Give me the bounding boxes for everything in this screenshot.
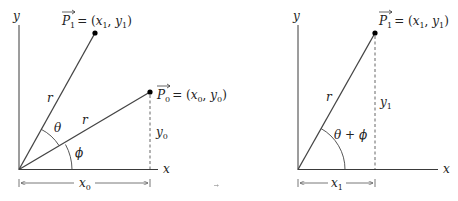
x0-label: x0 [79, 176, 91, 192]
y1-label: y1 [379, 95, 392, 111]
point-p0-label: P0= (x0, y0) [156, 84, 227, 104]
vector-p0 [19, 92, 150, 170]
radius-label-p0: r [82, 113, 89, 127]
svg-text:P1= (x1, y1): P1= (x1, y1) [61, 14, 132, 30]
stray-arrow-mark [214, 185, 219, 187]
left-x-axis-label: x [163, 162, 170, 176]
radius-label-p1: r [47, 91, 54, 105]
phi-label: ϕ [75, 146, 83, 160]
vector-p1 [19, 33, 95, 170]
point-p1-dot [92, 30, 97, 35]
point-p1-rotated-dot [372, 30, 377, 35]
point-p1-label: P1= (x1, y1) [61, 10, 132, 30]
svg-text:P0= (x0, y0): P0= (x0, y0) [156, 88, 227, 104]
y0-label: y0 [155, 125, 168, 141]
vector-p1-rotated [298, 33, 375, 170]
right-diagram: y x r θ + ϕ y1 x1 P1= (x1, y1) [292, 9, 450, 192]
right-x-axis-label: x [443, 162, 450, 176]
svg-text:P1= (x1, y1): P1= (x1, y1) [378, 14, 449, 30]
rotation-diagram: y x r r θ ϕ y0 x0 P1= (x1, y1) [0, 0, 458, 201]
theta-label: θ [54, 121, 62, 135]
phi-arc [66, 145, 73, 170]
right-y-axis-label: y [292, 9, 300, 23]
x1-label: x1 [331, 176, 343, 192]
radius-label-rotated: r [326, 90, 333, 104]
theta-plus-phi-label: θ + ϕ [334, 128, 367, 142]
point-p0-dot [147, 89, 152, 94]
left-y-axis-label: y [12, 9, 20, 23]
left-diagram: y x r r θ ϕ y0 x0 P1= (x1, y1) [12, 9, 227, 192]
point-p1-rotated-label: P1= (x1, y1) [378, 10, 449, 30]
